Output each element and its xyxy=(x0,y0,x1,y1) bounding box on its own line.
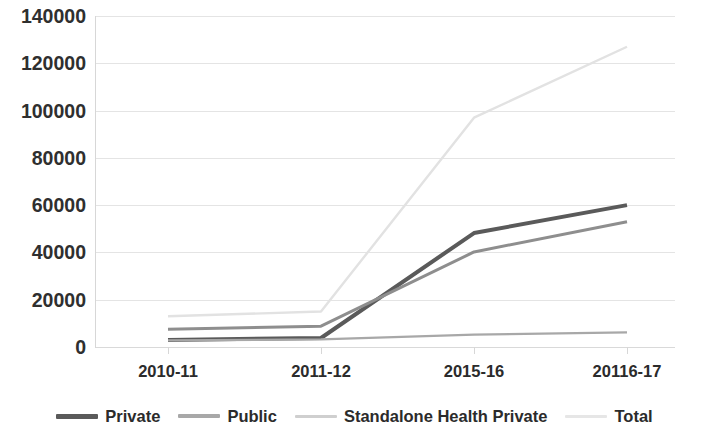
line-chart: 020000400006000080000100000120000140000 … xyxy=(0,0,709,432)
legend-item-standalone-health-private[interactable]: Standalone Health Private xyxy=(295,407,548,426)
legend-color-swatch xyxy=(178,414,220,418)
legend-item-private[interactable]: Private xyxy=(56,407,160,426)
legend-color-swatch xyxy=(295,415,337,418)
legend-label: Total xyxy=(614,407,652,426)
legend-item-total[interactable]: Total xyxy=(565,407,652,426)
legend-color-swatch xyxy=(56,414,98,419)
series-line-public xyxy=(168,332,627,340)
legend-item-public[interactable]: Public xyxy=(178,407,277,426)
legend-label: Private xyxy=(105,407,160,426)
legend-label: Public xyxy=(227,407,277,426)
chart-legend: PrivatePublicStandalone Health PrivateTo… xyxy=(0,400,709,432)
series-line-total xyxy=(168,47,627,317)
legend-color-swatch xyxy=(565,415,607,418)
data-series-layer xyxy=(0,0,709,432)
series-line-private xyxy=(168,205,627,340)
legend-label: Standalone Health Private xyxy=(344,407,548,426)
